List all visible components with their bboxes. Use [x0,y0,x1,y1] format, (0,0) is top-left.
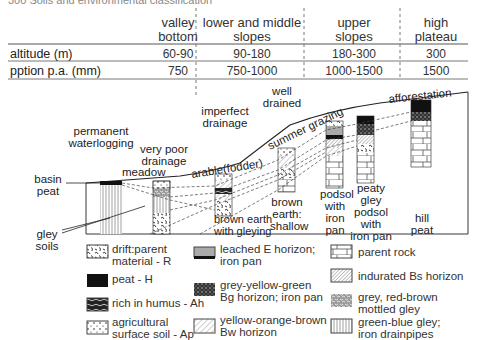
label-hill-peat: hill peat [408,212,436,236]
legend-swatches-col3 [330,243,354,339]
legend-agricultural: agricultural surface soil - Ap [112,316,194,340]
legend-humus: rich in humus - Ah [112,297,204,309]
precip-valley: 750 [148,64,208,78]
legend-peat: peat - H [112,273,153,285]
altitude-lower-slopes: 90-180 [200,47,304,61]
label-gley-soils: gley soils [30,228,64,252]
legend-mottled-gley: grey, red-brown mottled gley [358,291,438,315]
precip-lower-slopes: 750-1000 [200,64,304,78]
legend-bs-horizon: indurated Bs horizon [358,270,463,282]
precip-plateau: 1500 [404,64,468,78]
legend-parent-rock: parent rock [358,246,416,258]
column-header-high-plateau: high plateau [404,16,468,44]
column-header-lower-middle-slopes: lower and middle slopes [200,16,304,44]
label-permanent-waterlogging: permanent waterlogging [68,125,134,149]
label-imperfect-drainage: imperfect drainage [200,105,250,129]
truncated-heading: 300 Soils and environmental classificati… [8,0,212,6]
altitude-plateau: 300 [404,47,468,61]
label-well-drained: well drained [262,85,302,109]
label-brown-earth-gleying: brown earth with gleying [214,213,278,237]
legend-leached: leached E horizon; iron pan [220,243,315,267]
label-peaty-gley-podsol: peaty gley podsol with iron pan [350,182,392,242]
column-header-upper-slopes: upper slopes [308,16,400,44]
row-label-altitude: altitude (m) [10,47,73,61]
legend-drift: drift:parent material - R [112,243,171,267]
precip-upper-slopes: 1000-1500 [308,64,400,78]
legend-bg-horizon: grey-yellow-green Bg horizon; iron pan [220,279,323,303]
landuse-meadow: meadow [122,166,166,178]
altitude-upper-slopes: 180-300 [308,47,400,61]
legend-bw-horizon: yellow-orange-brown Bw horizon [220,314,327,338]
label-podsol-iron-pan: podsol with iron pan [320,188,350,236]
legend-swatches-col1 [86,243,110,339]
label-basin-peat: basin peat [30,173,66,197]
row-label-precipitation: pption p.a. (mm) [10,64,101,78]
legend-swatches-col2 [193,243,217,339]
altitude-valley: 60-90 [148,47,208,61]
label-very-poor-drainage: very poor drainage [140,143,188,167]
legend-green-blue-gley: green-blue gley; iron drainpipes [358,316,440,340]
column-header-valley-bottom: valley bottom [148,16,208,44]
label-brown-earth-shallow: brown earth: shallow [270,196,304,232]
